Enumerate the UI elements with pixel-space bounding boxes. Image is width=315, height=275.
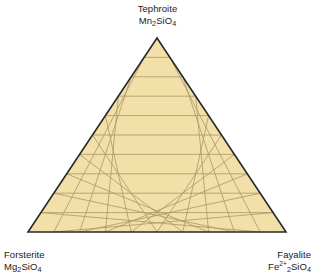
tephroite-name: Tephroite (0, 3, 315, 15)
tephroite-formula: Mn2SiO4 (0, 15, 315, 28)
corner-label-tephroite: Tephroite Mn2SiO4 (0, 3, 315, 27)
fayalite-formula: Fe2+2SiO4 (268, 261, 311, 274)
corner-label-forsterite: Forsterite Mg2SiO4 (4, 249, 45, 273)
forsterite-name: Forsterite (4, 249, 45, 261)
corner-label-fayalite: Fayalite Fe2+2SiO4 (268, 249, 311, 273)
ternary-triangle-graphic (0, 0, 315, 275)
ternary-diagram: Tephroite Mn2SiO4 Forsterite Mg2SiO4 Fay… (0, 0, 315, 275)
forsterite-formula: Mg2SiO4 (4, 261, 45, 274)
fayalite-name: Fayalite (268, 249, 311, 261)
